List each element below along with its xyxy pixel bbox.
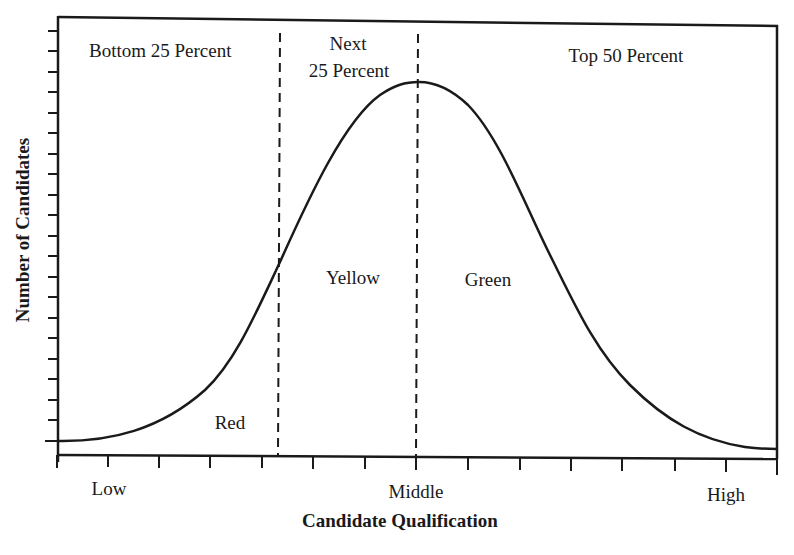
x-axis-title: Candidate Qualification (302, 510, 498, 531)
divider-25th-percentile (278, 33, 280, 455)
zone-label-green: Green (465, 269, 512, 290)
bell-curve-chart: Bottom 25 Percent Next 25 Percent Top 50… (0, 0, 794, 555)
zone-label-yellow: Yellow (326, 267, 380, 288)
zone-label-red: Red (215, 412, 246, 433)
region-label-bottom-25: Bottom 25 Percent (89, 40, 232, 61)
region-label-next-25-line2: 25 Percent (309, 60, 390, 81)
x-tick-label-middle: Middle (389, 481, 444, 502)
x-tick-label-high: High (707, 484, 746, 505)
x-tick-label-low: Low (92, 478, 127, 499)
y-axis-title: Number of Candidates (12, 138, 33, 322)
region-label-next-25-line1: Next (330, 33, 368, 54)
divider-50th-percentile (416, 34, 418, 457)
y-axis-ticks (45, 31, 58, 441)
region-label-top-50: Top 50 Percent (569, 45, 684, 66)
